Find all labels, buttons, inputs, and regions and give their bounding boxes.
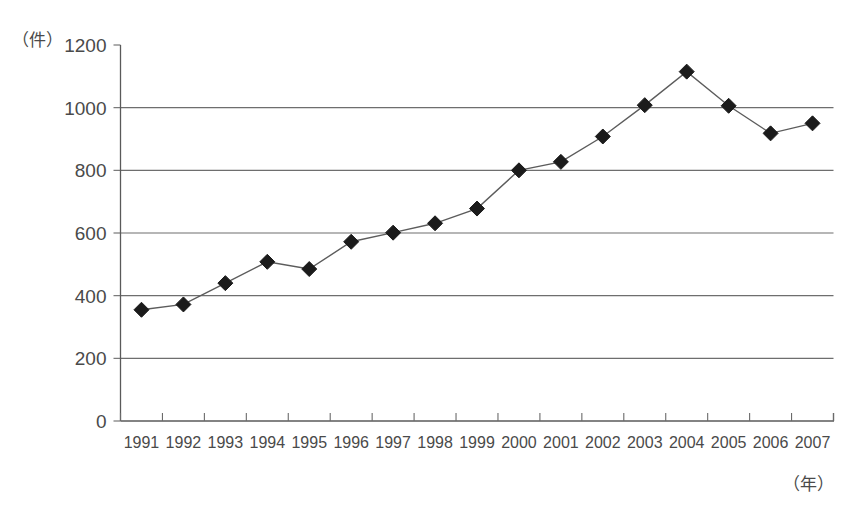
data-point-marker: [428, 216, 443, 231]
x-tick-label: 1994: [249, 434, 285, 451]
chart-plot-area: 020040060080010001200 199119921993199419…: [0, 0, 856, 506]
x-tick-label: 2001: [543, 434, 579, 451]
data-point-marker: [134, 302, 149, 317]
data-point-marker: [637, 98, 652, 113]
x-tick-label: 1995: [291, 434, 327, 451]
x-tick-label: 2004: [669, 434, 705, 451]
y-tick-label: 800: [75, 160, 107, 181]
data-point-marker: [595, 129, 610, 144]
x-tick-label: 2000: [501, 434, 537, 451]
gridlines: [121, 108, 834, 359]
data-point-marker: [344, 234, 359, 249]
x-tick-label: 1992: [166, 434, 202, 451]
x-tick-label: 2003: [627, 434, 663, 451]
x-axis-tick-marks: [121, 413, 834, 421]
x-tick-label: 1997: [375, 434, 411, 451]
data-point-marker: [553, 154, 568, 169]
y-tick-label: 0: [96, 411, 107, 432]
y-axis-tick-labels: 020040060080010001200: [64, 35, 106, 432]
data-point-marker: [176, 297, 191, 312]
data-point-markers: [134, 64, 820, 317]
x-tick-label: 2002: [585, 434, 621, 451]
x-tick-label: 1998: [417, 434, 453, 451]
y-axis-unit-label: （件）: [12, 26, 63, 51]
x-tick-label: 1993: [208, 434, 244, 451]
data-point-marker: [260, 254, 275, 269]
data-point-marker: [679, 64, 694, 79]
x-axis-tick-labels: 1991199219931994199519961997199819992000…: [124, 434, 831, 451]
data-point-marker: [805, 116, 820, 131]
data-point-marker: [721, 98, 736, 113]
x-tick-label: 1999: [459, 434, 495, 451]
x-tick-label: 1991: [124, 434, 160, 451]
y-axis-tick-marks: [114, 45, 121, 421]
y-tick-label: 600: [75, 223, 107, 244]
line-chart: （件） （年） 020040060080010001200 1991199219…: [0, 0, 856, 506]
x-tick-label: 2006: [753, 434, 789, 451]
x-tick-label: 2005: [711, 434, 747, 451]
data-point-marker: [218, 276, 233, 291]
data-point-marker: [386, 225, 401, 240]
data-point-marker: [302, 262, 317, 277]
y-tick-label: 400: [75, 286, 107, 307]
y-tick-label: 1200: [64, 35, 106, 56]
y-tick-label: 1000: [64, 98, 106, 119]
y-tick-label: 200: [75, 348, 107, 369]
x-tick-label: 2007: [795, 434, 831, 451]
x-axis-unit-label: （年）: [783, 470, 834, 495]
data-point-marker: [763, 126, 778, 141]
x-tick-label: 1996: [333, 434, 369, 451]
